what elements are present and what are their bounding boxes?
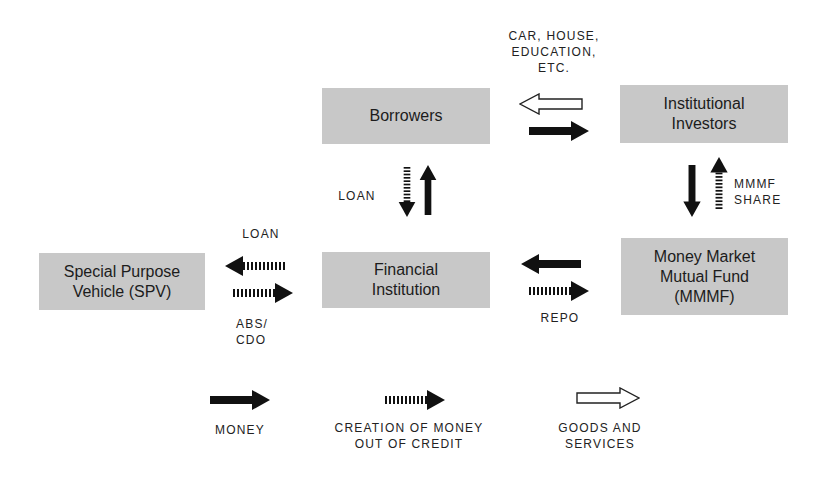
legend-dashed-arrow-icon — [384, 390, 446, 410]
dashed-arrow-right-icon — [528, 281, 590, 301]
label-car-house-education: CAR, HOUSE, EDUCATION, ETC. — [496, 28, 612, 76]
label-loan-spv: LOAN — [236, 226, 286, 242]
diagram-canvas: Borrowers Institutional Investors Financ… — [0, 0, 824, 481]
label-loan-vertical: LOAN — [332, 188, 382, 204]
legend-label-credit: CREATION OF MONEY OUT OF CREDIT — [318, 420, 500, 452]
label-abs-cdo: ABS/ CDO — [236, 316, 280, 348]
node-borrowers: Borrowers — [322, 88, 490, 144]
legend-hollow-arrow-icon — [576, 387, 640, 409]
label-repo: REPO — [530, 310, 590, 326]
solid-arrow-down-icon — [682, 165, 702, 217]
solid-arrow-left-icon — [520, 254, 582, 274]
label-mmmf-share: MMMF SHARE — [734, 176, 790, 208]
solid-arrow-up-icon — [418, 165, 438, 215]
node-institutional-investors: Institutional Investors — [620, 85, 788, 143]
dashed-arrow-up-icon — [709, 157, 729, 209]
legend-solid-arrow-icon — [209, 390, 271, 410]
dashed-arrow-right-icon — [232, 283, 294, 303]
node-spv: Special Purpose Vehicle (SPV) — [39, 253, 205, 310]
legend-label-money: MONEY — [200, 422, 280, 438]
node-financial-institution: Financial Institution — [322, 252, 490, 308]
legend-label-goods: GOODS AND SERVICES — [548, 420, 652, 452]
node-mmmf: Money Market Mutual Fund (MMMF) — [621, 238, 788, 315]
hollow-arrow-left-icon — [519, 93, 583, 115]
dashed-arrow-left-icon — [224, 256, 286, 276]
dashed-arrow-down-icon — [397, 167, 417, 217]
solid-arrow-right-icon — [528, 121, 590, 141]
